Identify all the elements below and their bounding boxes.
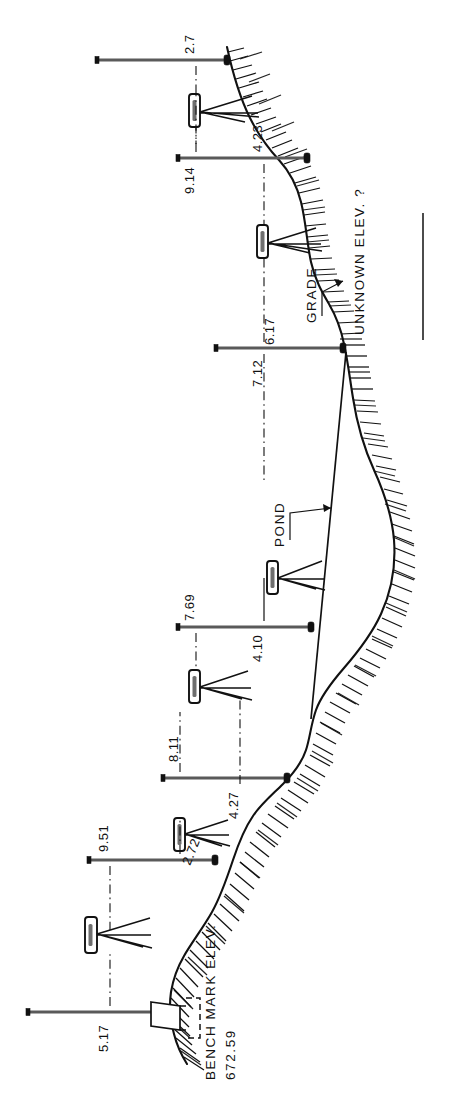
reading-label-8-11: 8.11: [166, 736, 181, 762]
reading-label-6-17: 6.17: [262, 318, 277, 345]
reading-label-5-17: 5.17: [96, 1025, 111, 1052]
grade-label: GRADE: [304, 267, 319, 323]
profile-svg: POND GRADE 2.7 9.14 4.23: [0, 0, 462, 1108]
paper-background: [0, 0, 462, 1108]
bench-mark-label: BENCH MARK ELEV.: [203, 924, 218, 1080]
pond-label: POND: [272, 502, 287, 547]
reading-label-9-51: 9.51: [96, 825, 111, 852]
bench-mark-value: 672.59: [223, 1029, 238, 1080]
leveling-profile-drawing: POND GRADE 2.7 9.14 4.23: [0, 0, 462, 1108]
reading-label-7-69: 7.69: [182, 594, 197, 621]
reading-label-4-23: 4.23: [250, 125, 265, 152]
reading-label-4-10: 4.10: [250, 635, 265, 662]
unknown-elev-label: UNKNOWN ELEV. ?: [352, 188, 367, 335]
reading-label-7-12: 7.12: [250, 360, 265, 387]
reading-label-4-27: 4.27: [226, 792, 241, 819]
reading-label-9-14: 9.14: [182, 167, 197, 194]
reading-label-2-7: 2.7: [182, 34, 197, 54]
